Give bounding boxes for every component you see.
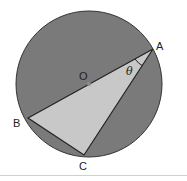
label-b: B — [13, 117, 20, 129]
label-theta: θ — [126, 65, 133, 78]
label-a: A — [156, 40, 164, 52]
label-c: C — [79, 160, 87, 172]
bottom-divider — [0, 175, 187, 176]
center-point — [87, 82, 91, 86]
label-o: O — [79, 70, 88, 82]
circle-diagram: A B C O θ — [0, 0, 187, 181]
